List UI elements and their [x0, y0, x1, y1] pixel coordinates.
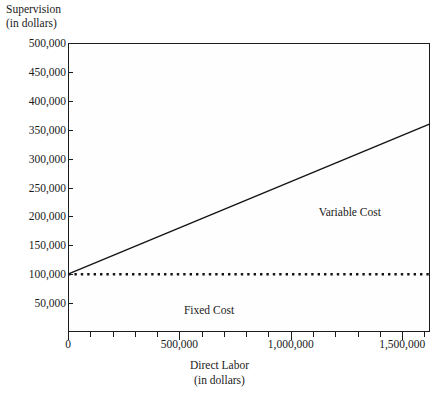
x-tick-mark-minor: [424, 332, 425, 337]
x-axis-title-line1: Direct Labor: [190, 359, 249, 371]
y-tick-label: 500,000: [29, 37, 66, 49]
y-tick-label: 150,000: [29, 239, 66, 251]
cost-behavior-chart: Supervision (in dollars) 50,000100,00015…: [0, 0, 439, 398]
x-tick-mark-minor: [157, 332, 158, 337]
x-tick-mark-minor: [335, 332, 336, 337]
y-tick-label: 250,000: [29, 182, 66, 194]
x-tick-label: 1,500,000: [379, 338, 425, 350]
y-tick-mark: [68, 188, 73, 189]
variable-cost-label: Variable Cost: [319, 206, 381, 218]
x-tick-mark-minor: [313, 332, 314, 337]
y-tick-mark: [68, 130, 73, 131]
x-tick-mark-minor: [113, 332, 114, 337]
y-tick-label: 450,000: [29, 66, 66, 78]
x-tick-mark-minor: [224, 332, 225, 337]
x-tick-mark-minor: [90, 332, 91, 337]
y-tick-mark: [68, 245, 73, 246]
y-tick-mark: [68, 216, 73, 217]
x-tick-mark-minor: [380, 332, 381, 337]
x-axis-title-line2: (in dollars): [0, 373, 439, 388]
y-axis-title-line2: (in dollars): [6, 16, 61, 30]
y-tick-label: 400,000: [29, 95, 66, 107]
y-tick-mark: [68, 72, 73, 73]
y-tick-mark: [68, 303, 73, 304]
y-tick-label: 300,000: [29, 153, 66, 165]
y-tick-label: 50,000: [34, 297, 66, 309]
y-tick-label: 350,000: [29, 124, 66, 136]
x-tick-label: 0: [65, 338, 71, 350]
x-tick-mark-minor: [268, 332, 269, 337]
y-tick-label: 100,000: [29, 268, 66, 280]
x-tick-label: 500,000: [161, 338, 198, 350]
y-tick-mark: [68, 274, 73, 275]
x-tick-label: 1,000,000: [268, 338, 314, 350]
y-tick-mark: [68, 159, 73, 160]
fixed-cost-label: Fixed Cost: [184, 304, 234, 316]
y-axis-title: Supervision (in dollars): [6, 2, 61, 30]
y-tick-mark: [68, 101, 73, 102]
x-tick-mark-minor: [202, 332, 203, 337]
y-tick-label: 200,000: [29, 210, 66, 222]
x-tick-mark-minor: [358, 332, 359, 337]
y-axis-title-line1: Supervision: [6, 3, 61, 15]
x-tick-mark-minor: [246, 332, 247, 337]
plot-area: [68, 43, 430, 332]
x-axis-title: Direct Labor (in dollars): [0, 358, 439, 387]
x-tick-mark-minor: [135, 332, 136, 337]
